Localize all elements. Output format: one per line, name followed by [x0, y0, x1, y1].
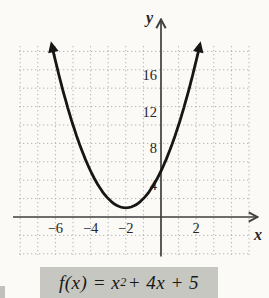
x-tick-label: −2 — [118, 220, 133, 236]
tick-labels: 481216−6−4−22 — [48, 67, 200, 236]
parabola-graph: 481216−6−4−22yx — [0, 0, 269, 262]
scan-edge-shadow — [0, 286, 5, 298]
y-axis-label: y — [144, 9, 154, 27]
x-tick-label: −6 — [48, 220, 63, 236]
x-axis-label: x — [253, 226, 262, 243]
x-tick-label: 2 — [193, 220, 200, 236]
formula-body: (x) = x — [65, 272, 120, 294]
y-tick-label: 12 — [143, 104, 158, 120]
y-tick-label: 8 — [150, 140, 157, 156]
function-formula-box: f(x) = x2 + 4x + 5 — [40, 267, 218, 298]
x-tick-label: −4 — [83, 220, 99, 236]
y-tick-label: 16 — [143, 67, 158, 83]
figure: 481216−6−4−22yx f(x) = x2 + 4x + 5 — [0, 0, 269, 298]
formula-tail: + 4x + 5 — [128, 272, 199, 294]
